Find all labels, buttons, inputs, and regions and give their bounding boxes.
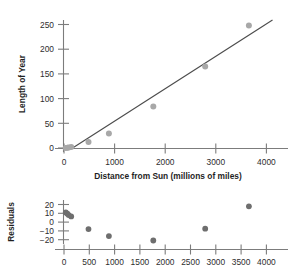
residual-point-uranus <box>150 238 156 244</box>
data-point-jupiter <box>86 139 92 145</box>
res-x-ticklabel-2000: 2000 <box>156 257 175 267</box>
res-x-ticklabel-2500: 2500 <box>181 257 200 267</box>
data-point-uranus <box>150 104 156 110</box>
top-x-ticklabel-2000: 2000 <box>156 157 175 167</box>
res-x-ticklabel-1000: 1000 <box>105 257 124 267</box>
data-point-pluto <box>246 23 252 29</box>
res-y-axis-title: Residuals <box>6 202 16 242</box>
top-y-axis-title: Length of Year <box>17 54 27 113</box>
top-x-ticklabel-3000: 3000 <box>206 157 225 167</box>
top-x-axis-title: Distance from Sun (millions of miles) <box>94 171 242 181</box>
scatter-plot-svg: 250 200 150 100 50 0 0 1000 2000 3000 40… <box>0 0 294 186</box>
top-y-ticklabel-100: 100 <box>40 94 54 104</box>
top-x-ticklabel-0: 0 <box>62 157 67 167</box>
residual-point-mars <box>68 214 74 220</box>
data-point-mars <box>68 144 74 150</box>
residuals-plot-svg: 20 10 0 −10 −20 0 500 1000 1500 200 <box>0 186 294 279</box>
res-y-ticklabel-neg20: −20 <box>40 235 55 245</box>
top-y-ticklabel-50: 50 <box>45 119 55 129</box>
residual-point-jupiter <box>86 226 92 232</box>
residual-point-saturn <box>106 233 112 239</box>
res-x-ticklabel-3500: 3500 <box>232 257 251 267</box>
residuals-panel: 20 10 0 −10 −20 0 500 1000 1500 200 <box>0 186 294 279</box>
planet-orbit-figure: 250 200 150 100 50 0 0 1000 2000 3000 40… <box>0 0 294 279</box>
res-x-ticklabel-4000: 4000 <box>257 257 276 267</box>
scatter-panel-length-of-year: 250 200 150 100 50 0 0 1000 2000 3000 40… <box>0 0 294 186</box>
residual-point-neptune <box>202 226 208 232</box>
data-point-saturn <box>106 130 112 136</box>
top-y-ticklabel-150: 150 <box>40 69 54 79</box>
top-y-ticklabel-250: 250 <box>40 20 54 30</box>
least-squares-fit-line <box>73 20 273 148</box>
residual-data-points <box>63 203 252 243</box>
res-x-ticklabel-3000: 3000 <box>206 257 225 267</box>
top-x-ticklabel-1000: 1000 <box>105 157 124 167</box>
data-point-neptune <box>202 64 208 70</box>
top-y-ticklabel-200: 200 <box>40 44 54 54</box>
res-x-ticklabel-0: 0 <box>62 257 67 267</box>
top-x-ticklabel-4000: 4000 <box>257 157 276 167</box>
top-y-ticklabel-0: 0 <box>49 143 54 153</box>
residual-point-pluto <box>246 203 252 209</box>
res-x-ticklabel-500: 500 <box>82 257 96 267</box>
res-x-ticklabel-1500: 1500 <box>131 257 150 267</box>
top-data-points <box>63 23 252 151</box>
